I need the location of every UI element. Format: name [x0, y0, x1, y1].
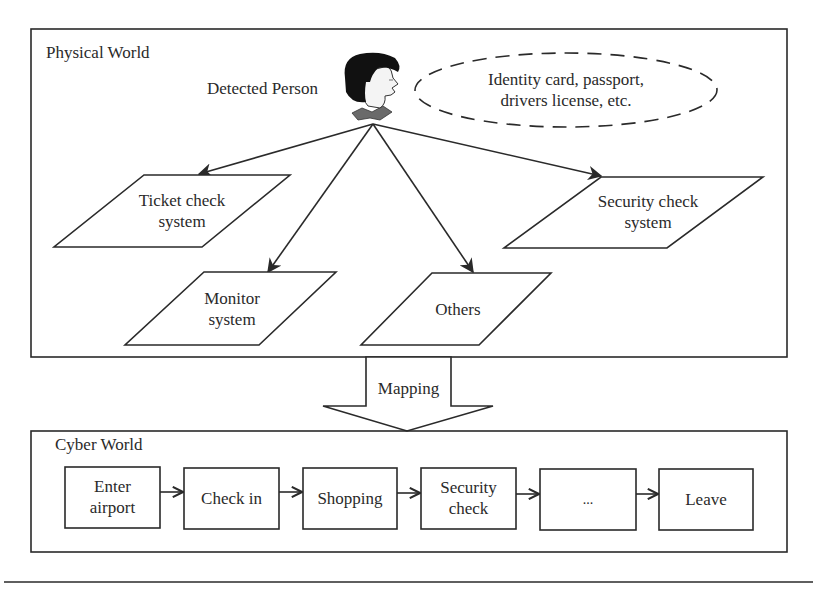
security-check-line1: Security check: [568, 191, 728, 212]
step-security-line2: check: [421, 498, 516, 519]
arrow-to-monitor: [268, 124, 373, 272]
monitor-line2: system: [172, 309, 292, 330]
ticket-check-label: Ticket check system: [112, 190, 252, 232]
id-documents-line2: drivers license, etc.: [416, 90, 716, 111]
step-label-ellipsis: ...: [540, 489, 636, 510]
monitor-line1: Monitor: [172, 288, 292, 309]
mapping-label: Mapping: [366, 378, 451, 399]
step-label-enter-airport: Enter airport: [65, 476, 160, 518]
step-enter-line2: airport: [65, 497, 160, 518]
arrow-to-ticket: [199, 124, 373, 174]
step-label-leave: Leave: [659, 489, 753, 510]
person-icon: [345, 53, 400, 120]
monitor-label: Monitor system: [172, 288, 292, 330]
arrow-to-others: [373, 124, 473, 272]
arrow-to-security: [373, 124, 601, 176]
others-label: Others: [398, 299, 518, 320]
step-label-shopping: Shopping: [303, 488, 397, 509]
step-security-line1: Security: [421, 477, 516, 498]
ticket-check-line1: Ticket check: [112, 190, 252, 211]
step-label-check-in: Check in: [184, 488, 279, 509]
security-check-line2: system: [568, 212, 728, 233]
id-documents-text: Identity card, passport, drivers license…: [416, 69, 716, 111]
step-enter-line1: Enter: [65, 476, 160, 497]
physical-world-title: Physical World: [46, 42, 150, 63]
step-label-security-check: Security check: [421, 477, 516, 519]
ticket-check-line2: system: [112, 211, 252, 232]
detected-person-label: Detected Person: [207, 78, 318, 99]
security-check-system-label: Security check system: [568, 191, 728, 233]
cyber-world-title: Cyber World: [55, 434, 143, 455]
id-documents-line1: Identity card, passport,: [416, 69, 716, 90]
